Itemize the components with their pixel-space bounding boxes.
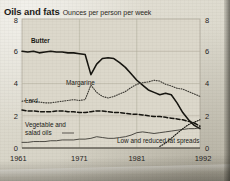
y-tick-right-8: 8 bbox=[205, 16, 209, 25]
y-tick-left-6: 6 bbox=[14, 47, 18, 56]
series-label-butter: Butter bbox=[31, 37, 50, 44]
y-tick-left-2: 2 bbox=[14, 112, 18, 121]
y-axis-left-labels: 8 6 4 2 0 bbox=[14, 16, 18, 153]
series-label-margarine: Margarine bbox=[66, 79, 95, 87]
series-label-lard: Lard bbox=[25, 97, 38, 104]
y-tick-right-2: 2 bbox=[205, 112, 209, 121]
series-label-vegetable-oils-line2: salad oils bbox=[25, 129, 52, 136]
series-label-vegetable-oils-line1: Vegetable and bbox=[25, 121, 66, 129]
y-tick-left-8: 8 bbox=[14, 16, 18, 25]
y-tick-right-4: 4 bbox=[205, 79, 209, 88]
y-tick-left-4: 4 bbox=[14, 79, 18, 88]
chart-page: Oils and fatsOunces per person per week bbox=[0, 0, 230, 181]
x-axis-labels: 1961 1971 1981 1992 bbox=[10, 154, 211, 163]
y-tick-left-0: 0 bbox=[14, 144, 18, 153]
x-tick-1961: 1961 bbox=[10, 154, 27, 163]
y-tick-right-6: 6 bbox=[205, 47, 209, 56]
y-axis-right-labels: 8 6 4 2 0 bbox=[205, 16, 209, 153]
chart-header: Oils and fatsOunces per person per week bbox=[4, 1, 226, 15]
chart-plot-area: 8 6 4 2 0 8 6 4 2 0 1961 1971 1981 1992 bbox=[0, 14, 230, 164]
x-tick-1992: 1992 bbox=[195, 154, 212, 163]
x-tick-1981: 1981 bbox=[128, 154, 145, 163]
series-label-low-fat-spreads: Low and reduced fat spreads bbox=[117, 137, 199, 145]
page-curl-highlight bbox=[0, 164, 230, 178]
y-tick-right-0: 0 bbox=[205, 144, 209, 153]
x-tick-1971: 1971 bbox=[71, 154, 88, 163]
line-chart-svg: 8 6 4 2 0 8 6 4 2 0 1961 1971 1981 1992 bbox=[0, 14, 230, 164]
